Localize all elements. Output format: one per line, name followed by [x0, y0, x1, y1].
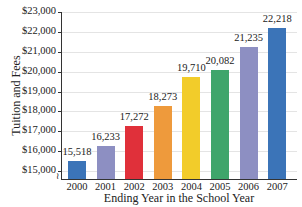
y-tick-label: $17,000 — [0, 124, 56, 135]
y-tick — [58, 92, 62, 93]
y-tick — [58, 52, 62, 53]
x-tick-label: 2002 — [119, 181, 149, 192]
value-label: 16,233 — [86, 131, 126, 142]
y-tick-label: $20,000 — [0, 65, 56, 76]
value-label: 22,218 — [257, 13, 297, 24]
value-label: 15,518 — [57, 146, 97, 157]
x-tick-label: 2005 — [205, 181, 235, 192]
x-tick-label: 2007 — [262, 181, 292, 192]
x-tick-label: 2001 — [91, 181, 121, 192]
y-tick-label: $22,000 — [0, 25, 56, 36]
y-tick — [58, 72, 62, 73]
bar-2001 — [97, 146, 115, 179]
bar-2003 — [154, 106, 172, 179]
y-tick-label: $15,000 — [0, 164, 56, 175]
gridline — [61, 52, 297, 53]
y-tick-label: $21,000 — [0, 45, 56, 56]
bar-2005 — [211, 70, 229, 179]
y-tick — [58, 12, 62, 13]
bar-2006 — [240, 47, 258, 179]
y-tick — [58, 171, 62, 172]
y-tick-label: $23,000 — [0, 5, 56, 16]
x-axis-title: Ending Year in the School Year — [61, 191, 297, 206]
y-tick — [58, 131, 62, 132]
x-tick-label: 2003 — [148, 181, 178, 192]
value-label: 21,235 — [229, 32, 269, 43]
x-tick-label: 2004 — [176, 181, 206, 192]
y-tick-label: $18,000 — [0, 104, 56, 115]
bar-2007 — [268, 28, 286, 179]
x-axis-line — [61, 179, 297, 180]
value-label: 18,273 — [143, 91, 183, 102]
y-tick — [58, 32, 62, 33]
axis-break-icon: ≀ — [56, 171, 59, 181]
x-tick-label: 2006 — [234, 181, 264, 192]
y-tick-label: $19,000 — [0, 85, 56, 96]
tuition-bar-chart: Tuition and Fees ≀ Ending Year in the Sc… — [0, 0, 302, 207]
value-label: 17,272 — [114, 111, 154, 122]
y-tick-label: $16,000 — [0, 144, 56, 155]
bar-2000 — [68, 161, 86, 179]
gridline — [61, 111, 297, 112]
y-tick — [58, 111, 62, 112]
bar-2002 — [125, 126, 143, 179]
x-tick-label: 2000 — [62, 181, 92, 192]
value-label: 20,082 — [200, 55, 240, 66]
bar-2004 — [182, 77, 200, 179]
